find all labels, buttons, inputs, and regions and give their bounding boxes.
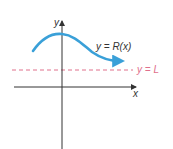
asymptote-label: y = L (136, 64, 159, 75)
x-axis-label: x (132, 88, 139, 99)
curve-label: y = R(x) (95, 41, 131, 52)
y-axis-label: y (53, 17, 60, 28)
graph: y x y = R(x) y = L (0, 0, 173, 149)
